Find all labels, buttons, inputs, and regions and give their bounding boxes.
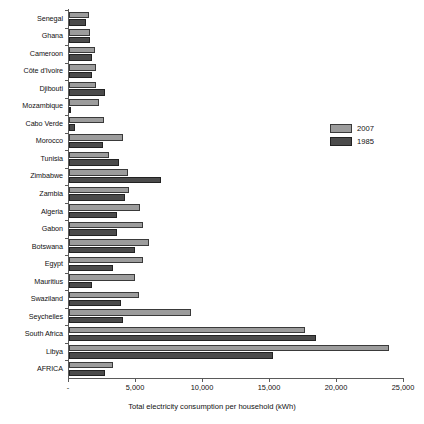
bar-1985: [69, 72, 92, 78]
chart-row: Mauritius: [68, 273, 403, 291]
category-label: Tunisia: [40, 155, 63, 162]
x-axis-tick-label: 15,000: [258, 384, 281, 391]
y-axis-tick: [65, 115, 68, 116]
bar-1985: [69, 300, 121, 306]
category-label: Cameroon: [30, 50, 63, 57]
chart-row: Cameroon: [68, 45, 403, 63]
chart-row: Côte d'Ivoire: [68, 63, 403, 81]
chart-row: Djibouti: [68, 80, 403, 98]
bar-2007: [69, 274, 135, 280]
bar-2007: [69, 309, 191, 315]
y-axis-tick: [65, 325, 68, 326]
legend-label: 1985: [357, 138, 374, 146]
chart-row: Zimbabwe: [68, 168, 403, 186]
x-axis-tick-label: 20,000: [325, 384, 348, 391]
category-label: Gabon: [42, 225, 63, 232]
x-axis-line: [68, 378, 404, 379]
category-label: Seychelles: [29, 313, 63, 320]
y-axis-tick: [65, 238, 68, 239]
category-label: Swaziland: [31, 296, 63, 303]
bar-1985: [69, 177, 161, 183]
category-label: Côte d'Ivoire: [24, 68, 63, 75]
chart-row: Senegal: [68, 10, 403, 28]
y-axis-tick: [65, 360, 68, 361]
legend-swatch: [330, 137, 352, 146]
y-axis-tick: [65, 308, 68, 309]
category-label: Zimbabwe: [30, 173, 63, 180]
bar-2007: [69, 257, 143, 263]
y-axis-tick: [65, 150, 68, 151]
y-axis-tick: [65, 28, 68, 29]
y-axis-tick: [65, 343, 68, 344]
bar-1985: [69, 317, 123, 323]
legend-label: 2007: [357, 125, 374, 133]
bar-2007: [69, 47, 95, 53]
bar-1985: [69, 352, 273, 358]
bar-1985: [69, 370, 105, 376]
x-axis-tick: [336, 378, 337, 382]
x-axis-title: Total electricity consumption per househ…: [0, 402, 424, 411]
y-axis-tick: [65, 98, 68, 99]
chart-row: Algeria: [68, 203, 403, 221]
y-axis-tick: [65, 255, 68, 256]
chart-row: AFRICA: [68, 360, 403, 378]
x-axis-tick: [202, 378, 203, 382]
bar-2007: [69, 134, 123, 140]
bar-2007: [69, 82, 96, 88]
bar-1985: [69, 159, 119, 165]
bar-1985: [69, 265, 113, 271]
bar-2007: [69, 99, 99, 105]
y-axis-tick: [65, 168, 68, 169]
bar-1985: [69, 54, 92, 60]
category-label: Algeria: [41, 208, 63, 215]
bar-2007: [69, 29, 90, 35]
legend-item: 1985: [330, 135, 374, 148]
x-axis-tick-label: -: [67, 384, 69, 391]
chart-legend: 20071985: [330, 122, 374, 148]
bar-2007: [69, 169, 128, 175]
bar-1985: [69, 37, 90, 43]
category-label: Botswana: [32, 243, 63, 250]
y-axis-tick: [65, 80, 68, 81]
bar-2007: [69, 204, 140, 210]
x-axis-tick-label: 10,000: [191, 384, 214, 391]
y-axis-tick: [65, 133, 68, 134]
y-axis-tick: [65, 45, 68, 46]
x-axis-tick: [68, 378, 69, 382]
category-label: Egypt: [45, 260, 63, 267]
x-axis-tick: [403, 378, 404, 382]
category-label: Mozambique: [22, 103, 63, 110]
bar-2007: [69, 345, 389, 351]
x-axis-tick: [135, 378, 136, 382]
bar-2007: [69, 187, 129, 193]
y-axis-tick: [65, 63, 68, 64]
bar-2007: [69, 327, 305, 333]
x-axis-tick: [269, 378, 270, 382]
bar-chart: SenegalGhanaCameroonCôte d'IvoireDjibout…: [0, 0, 424, 424]
x-axis-tick-label: 25,000: [392, 384, 415, 391]
bar-1985: [69, 247, 135, 253]
bar-1985: [69, 19, 86, 25]
bar-1985: [69, 194, 125, 200]
bar-1985: [69, 229, 117, 235]
bar-2007: [69, 362, 113, 368]
category-label: Cabo Verde: [26, 120, 63, 127]
bar-1985: [69, 89, 105, 95]
category-label: AFRICA: [37, 366, 63, 373]
x-axis-tick-label: 5,000: [126, 384, 145, 391]
chart-row: Botswana: [68, 238, 403, 256]
chart-row: Zambia: [68, 185, 403, 203]
legend-swatch: [330, 124, 352, 133]
chart-row: Egypt: [68, 255, 403, 273]
bar-1985: [69, 335, 316, 341]
bar-2007: [69, 64, 96, 70]
bar-1985: [69, 107, 71, 113]
y-axis-tick: [65, 273, 68, 274]
category-label: Senegal: [37, 15, 63, 22]
bar-1985: [69, 212, 117, 218]
y-axis-tick: [65, 290, 68, 291]
category-label: South Africa: [25, 331, 63, 338]
bar-1985: [69, 282, 92, 288]
chart-row: Seychelles: [68, 308, 403, 326]
category-label: Zambia: [39, 190, 63, 197]
